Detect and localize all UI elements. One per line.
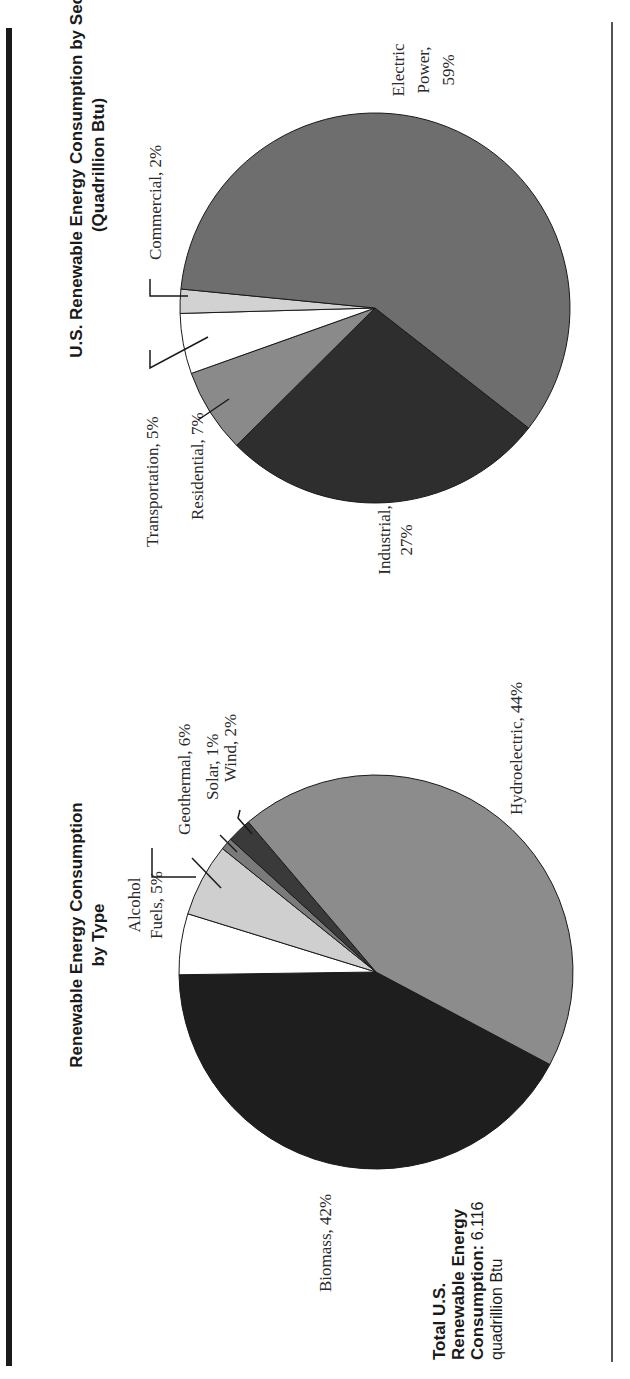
label-alcohol-line2: Fuels, 5% — [147, 871, 166, 939]
label-biomass: Biomass, 42% — [316, 1194, 335, 1292]
label-wind: Wind, 2% — [221, 714, 240, 782]
total-value: 6.116 — [469, 1201, 486, 1244]
label-industrial: Industrial, 27% — [375, 505, 416, 574]
label-solar: Solar, 1% — [203, 734, 222, 800]
chart-title-type: Renewable Energy Consumption by Type — [67, 802, 108, 1067]
label-geothermal: Geothermal, 6% — [175, 724, 194, 835]
pie-chart-by-type — [179, 775, 573, 1169]
chart-title-sector-line2: (Quadrillion Btu) — [89, 98, 108, 232]
chart-title-type-line2: by Type — [89, 904, 108, 967]
label-alcohol-fuels: Alcohol Fuels, 5% — [125, 871, 166, 939]
chart-title-type-line1: Renewable Energy Consumption — [67, 802, 86, 1067]
chart-title-sector: U.S. Renewable Energy Consumption by Sec… — [67, 0, 108, 358]
label-commercial: Commercial, 2% — [146, 145, 165, 260]
total-consumption-note: Total U.S. Renewable Energy Consumption:… — [430, 1201, 505, 1360]
total-line3-label: Consumption: — [468, 1245, 487, 1360]
label-electric-line2: Power, — [414, 46, 433, 93]
label-electric-line3: 59% — [439, 54, 458, 85]
label-electric-line1: Electric — [389, 43, 408, 96]
label-residential: Residential, 7% — [188, 412, 207, 520]
label-industrial-line1: Industrial, — [375, 505, 394, 574]
label-transportation: Transportation, 5% — [143, 416, 162, 547]
chart-title-sector-line1: U.S. Renewable Energy Consumption by Sec… — [67, 0, 86, 358]
total-line1: Total U.S. — [430, 1283, 449, 1360]
pie-chart-by-sector — [180, 113, 570, 503]
label-alcohol-line1: Alcohol — [125, 877, 144, 932]
chart-canvas: Renewable Energy Consumption by Type U.S… — [0, 0, 630, 1379]
total-line2: Renewable Energy — [449, 1208, 468, 1360]
total-line3: Consumption: 6.116 — [468, 1201, 487, 1360]
label-industrial-line2: 27% — [397, 524, 416, 555]
label-electric-power: Electric Power, 59% — [389, 43, 458, 96]
total-unit: quadrillion Btu — [488, 1259, 505, 1360]
label-hydroelectric: Hydroelectric, 44% — [507, 682, 526, 815]
left-border-rule — [6, 28, 12, 1366]
